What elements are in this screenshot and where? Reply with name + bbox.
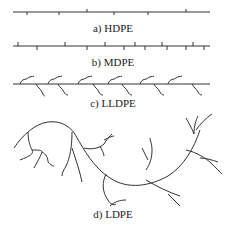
panel-label-mdpe: b) MDPE [0, 56, 226, 68]
hdpe-chain [13, 9, 210, 15]
panel-label-lldpe: c) LLDPE [0, 97, 226, 109]
panel-label-hdpe: a) HDPE [0, 22, 226, 34]
panel-label-ldpe: d) LDPE [0, 208, 226, 220]
polyethylene-diagram [0, 0, 226, 227]
mdpe-chain [13, 42, 210, 50]
ldpe-chain [14, 114, 222, 206]
lldpe-chain [13, 76, 210, 96]
